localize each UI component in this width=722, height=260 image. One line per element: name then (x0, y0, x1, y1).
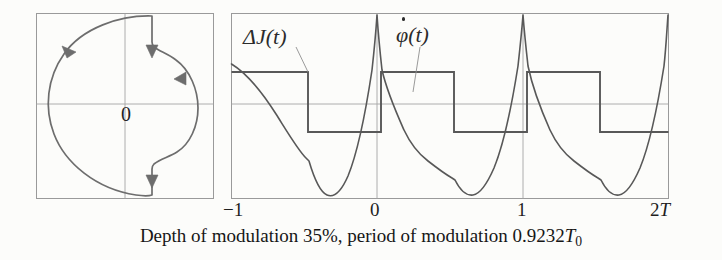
axis-tick-0: 0 (370, 200, 380, 219)
figure-caption: Depth of modulation 35%, period of modul… (0, 226, 722, 249)
leader-line-delta-J (296, 47, 308, 72)
axis-tick-1: 1 (517, 200, 527, 219)
label-delta-j-delta: Δ (243, 24, 256, 49)
phase-arrow-bottom-descending (146, 175, 158, 188)
label-delta-j: ΔJ(t) (243, 26, 286, 48)
label-delta-j-symbol: J (256, 24, 266, 49)
axis-tick-0-text: 0 (370, 199, 380, 220)
label-delta-j-arg: (t) (266, 24, 287, 49)
leader-line-phi-dot (413, 47, 420, 92)
phase-arrow-inner-right (174, 72, 186, 85)
time-series-panel (232, 14, 669, 199)
axis-tick-2T-text: 2 (650, 199, 660, 220)
axis-tick-minus-1: −1 (223, 200, 243, 219)
phase-origin-label: 0 (121, 104, 131, 124)
caption-text: Depth of modulation 35%, period of modul… (140, 225, 565, 246)
axis-tick-minus-1-text: −1 (223, 199, 243, 220)
label-phi-dot-arg: (t) (408, 22, 429, 47)
delta-J-square-wave (232, 72, 669, 132)
axis-tick-1-text: 1 (517, 199, 527, 220)
phase-arrow-top-descending (146, 45, 158, 58)
phi-symbol-with-dot: φ (396, 24, 408, 46)
axis-tick-2T-unit: T (660, 199, 671, 220)
caption-symbol: T (565, 225, 576, 246)
caption-subscript: 0 (575, 234, 582, 249)
phi-dot-wave (232, 15, 669, 196)
time-series-frame (232, 14, 669, 199)
axis-tick-2T: 2T (650, 200, 670, 219)
figure-graphics (0, 0, 722, 260)
label-phi-dot: φ(t) (396, 24, 429, 46)
figure-container: 0 ΔJ(t) φ(t) −1 0 1 2T Depth of modulati… (0, 0, 722, 260)
